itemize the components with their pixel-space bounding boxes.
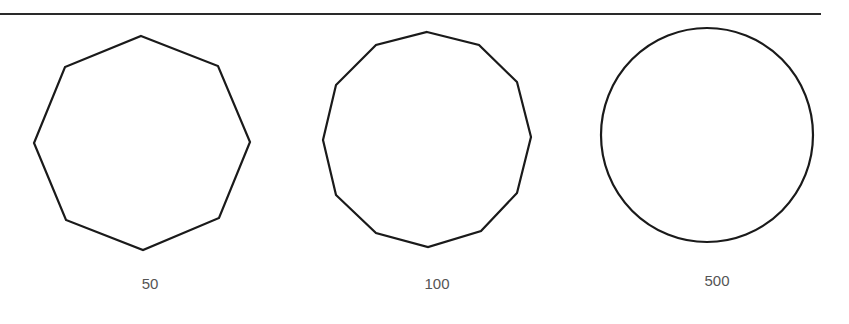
label-500: 500: [704, 272, 729, 289]
label-50: 50: [142, 275, 159, 292]
circle-shape: [601, 28, 813, 242]
label-100: 100: [424, 275, 449, 292]
dodecagon-shape: [323, 32, 531, 247]
octagon-shape: [34, 36, 250, 250]
